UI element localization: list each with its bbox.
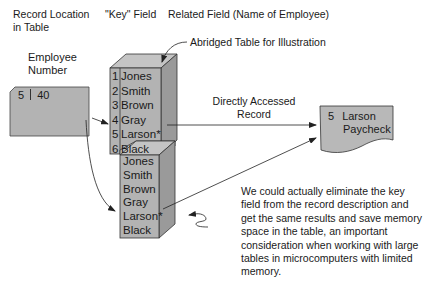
directly-accessed-line1: Directly Accessed bbox=[204, 95, 304, 108]
table-row: 4Gray bbox=[112, 113, 161, 128]
record-location-header: Record Location in Table bbox=[13, 8, 89, 33]
row-key: 4 bbox=[112, 113, 121, 128]
row-name: Brown bbox=[121, 99, 154, 111]
note-line: memory. bbox=[241, 265, 422, 278]
table-row: Jones bbox=[123, 155, 163, 169]
directly-accessed-label: Directly Accessed Record bbox=[204, 95, 304, 120]
note-line: get the same results and save memory bbox=[241, 212, 422, 225]
paycheck-document: 5Larson Paycheck bbox=[328, 110, 391, 136]
table-row: Black bbox=[123, 224, 163, 238]
row-name: Larson* bbox=[121, 128, 161, 140]
note-pointer-arrow bbox=[189, 214, 208, 227]
employee-label-line1: Employee bbox=[28, 51, 77, 64]
note-line: field from the record description and bbox=[241, 198, 422, 211]
employee-number-value: 40 bbox=[37, 89, 49, 101]
row-key: 1 bbox=[112, 69, 121, 84]
row-key: 6 bbox=[112, 142, 121, 157]
key-field-header: "Key" Field bbox=[105, 8, 156, 21]
related-field-header: Related Field (Name of Employee) bbox=[168, 8, 329, 21]
row-name: Gray bbox=[121, 114, 146, 126]
table-row: 5Larson* bbox=[112, 127, 161, 142]
table-row: 1Jones bbox=[112, 69, 161, 84]
note-line: tables in microcomputers with limited bbox=[241, 252, 422, 265]
paycheck-record-num: 5 bbox=[328, 110, 334, 122]
explanatory-note: We could actually eliminate the key fiel… bbox=[241, 185, 422, 279]
employee-label-line2: Number bbox=[28, 64, 77, 77]
row-name: Jones bbox=[121, 70, 152, 82]
table-row: Brown bbox=[123, 183, 163, 197]
keyless-table: Jones Smith Brown Gray Larson* Black bbox=[123, 155, 163, 238]
field-divider bbox=[30, 89, 31, 100]
note-line: We could actually eliminate the key bbox=[241, 185, 422, 198]
abridged-table-label: Abridged Table for Illustration bbox=[190, 36, 326, 49]
keyed-table: 1Jones 2Smith 3Brown 4Gray 5Larson* 6Bla… bbox=[112, 69, 161, 157]
record-location-line1: Record Location bbox=[13, 8, 89, 21]
row-name: Black bbox=[121, 143, 149, 155]
row-key: 3 bbox=[112, 98, 121, 113]
row-key: 5 bbox=[112, 127, 121, 142]
table-row: Gray bbox=[123, 196, 163, 210]
directly-accessed-line2: Record bbox=[204, 108, 304, 121]
table-row: 2Smith bbox=[112, 84, 161, 99]
employee-location-value: 5 bbox=[18, 89, 24, 101]
paycheck-line2: Paycheck bbox=[328, 123, 391, 136]
note-line: space in the table, an important bbox=[241, 225, 422, 238]
record-location-line2: in Table bbox=[13, 21, 89, 34]
note-line: consideration when working with large bbox=[241, 239, 422, 252]
row-key: 2 bbox=[112, 84, 121, 99]
employee-number-record: 5 40 bbox=[18, 89, 50, 101]
row-name: Smith bbox=[121, 85, 150, 97]
table-row: Larson* bbox=[123, 210, 163, 224]
table-row: Smith bbox=[123, 169, 163, 183]
paycheck-line1: Larson bbox=[342, 110, 376, 122]
employee-number-label: Employee Number bbox=[28, 51, 77, 77]
table-row: 3Brown bbox=[112, 98, 161, 113]
employee-to-row5-arrow bbox=[92, 118, 108, 124]
